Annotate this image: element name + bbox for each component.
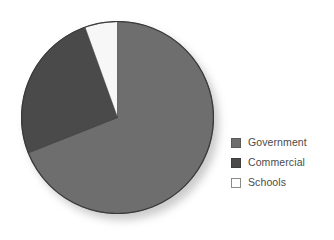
legend-label-government: Government: [248, 137, 307, 148]
legend-label-commercial: Commercial: [248, 157, 305, 168]
legend-swatch-government: [231, 138, 241, 148]
legend-item-schools[interactable]: Schools: [231, 173, 331, 192]
chart-legend: Government Commercial Schools: [231, 133, 331, 193]
pie-chart-svg: [21, 21, 214, 214]
legend-label-schools: Schools: [248, 177, 286, 188]
pie-chart-figure: Government Commercial Schools: [0, 0, 334, 240]
legend-swatch-commercial: [231, 158, 241, 168]
pie-chart-plot-area: [21, 21, 214, 214]
legend-item-government[interactable]: Government: [231, 133, 331, 152]
legend-swatch-schools: [231, 178, 241, 188]
legend-item-commercial[interactable]: Commercial: [231, 153, 331, 172]
